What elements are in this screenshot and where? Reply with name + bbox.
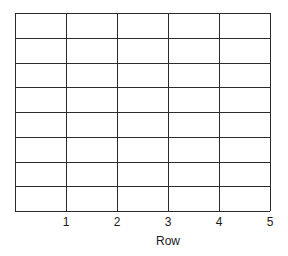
x-tick-label: 1 — [63, 215, 70, 229]
x-tick-label: 2 — [114, 215, 121, 229]
x-tick-label: 3 — [165, 215, 172, 229]
x-axis-ticks: 12345 — [63, 215, 274, 229]
x-tick-label: 5 — [267, 215, 274, 229]
x-tick-label: 4 — [216, 215, 223, 229]
grid — [15, 13, 271, 212]
grid-chart: 12345 Row — [0, 0, 288, 256]
x-axis-label: Row — [156, 234, 180, 248]
